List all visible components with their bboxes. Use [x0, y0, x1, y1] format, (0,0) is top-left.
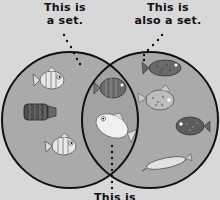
- left-label-line-1: This is: [20, 1, 110, 14]
- right-label-line-2: also a set.: [118, 14, 218, 27]
- left-set-label: This is a set.: [20, 1, 110, 27]
- left-label-line-2: a set.: [20, 14, 110, 27]
- venn-diagram: This is a set. This is also a set. This …: [0, 0, 220, 200]
- right-label-line-1: This is: [118, 1, 218, 14]
- intersection-label: This is: [80, 191, 150, 200]
- bottom-label-line-1: This is: [80, 191, 150, 200]
- right-set-label: This is also a set.: [118, 1, 218, 27]
- venn-graphic: [0, 0, 220, 200]
